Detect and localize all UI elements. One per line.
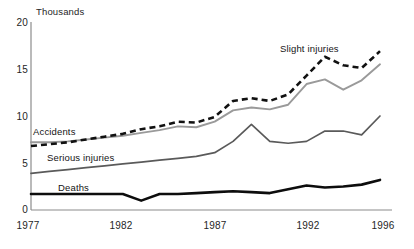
- chart-container: Thousands 20 15 10 5 0 1977 1982 1987 19…: [0, 0, 414, 249]
- chart-plot-area: [0, 0, 414, 249]
- series-line-deaths: [31, 180, 380, 201]
